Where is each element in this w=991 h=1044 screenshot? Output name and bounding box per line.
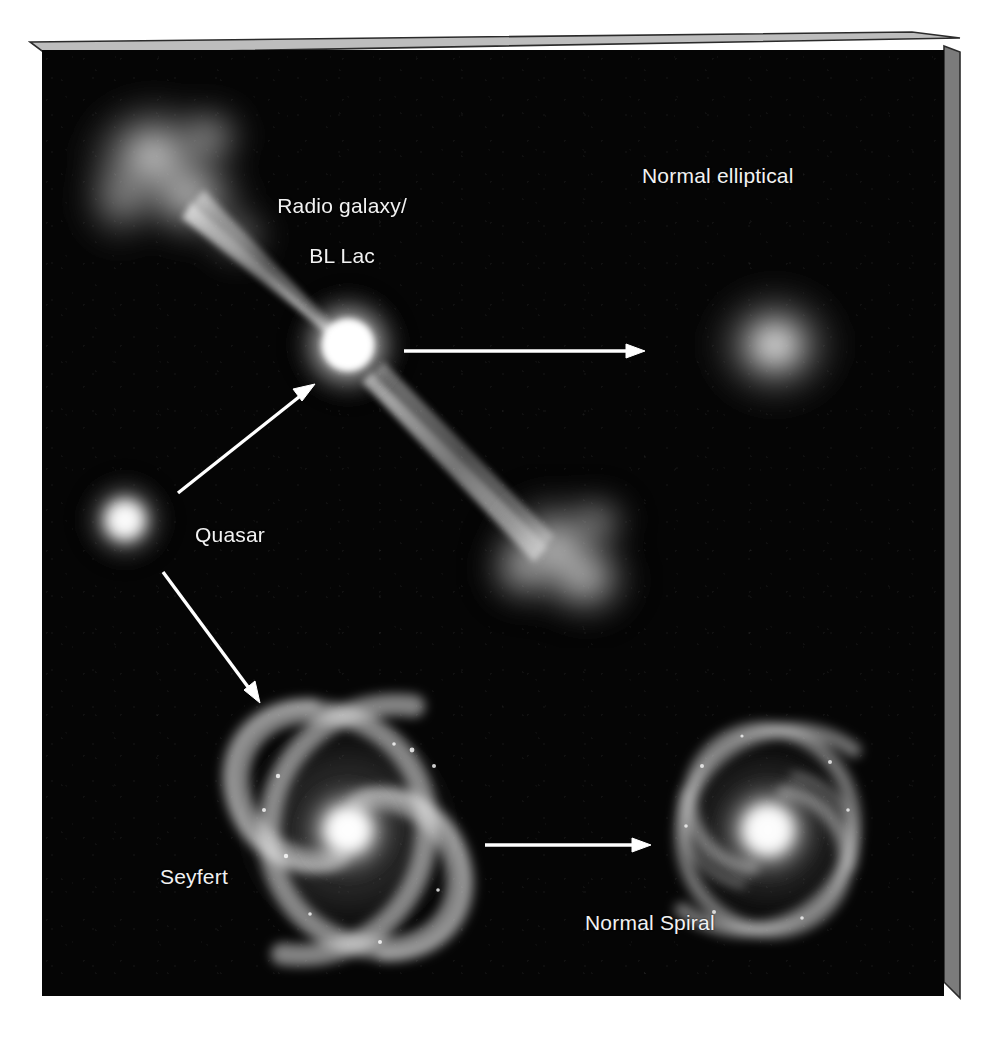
- normal-spiral-galaxy: [668, 729, 868, 931]
- arrow-seyfert-to-normal-spiral: [485, 838, 651, 852]
- normal-elliptical-galaxy: [695, 273, 855, 417]
- sky-panel: Radio galaxy/ BL Lac Normal elliptical Q…: [42, 50, 944, 996]
- label-normal-spiral: Normal Spiral: [585, 910, 715, 935]
- arrow-quasar-to-core: [178, 384, 315, 493]
- label-radio-galaxy-line2: BL Lac: [309, 244, 375, 267]
- label-quasar: Quasar: [195, 522, 265, 547]
- label-normal-elliptical: Normal elliptical: [642, 163, 794, 188]
- label-radio-galaxy-line1: Radio galaxy/: [277, 194, 407, 217]
- figure-stage: Radio galaxy/ BL Lac Normal elliptical Q…: [0, 0, 991, 1044]
- arrow-quasar-to-elliptical: [404, 344, 645, 358]
- label-seyfert: Seyfert: [160, 864, 228, 889]
- astronomy-scene: [42, 50, 944, 996]
- radio-lobe-lower-right: [474, 480, 645, 632]
- label-radio-galaxy: Radio galaxy/ BL Lac: [214, 168, 434, 293]
- quasar-point-source: [73, 468, 177, 572]
- seyfert-spiral-galaxy: [227, 704, 469, 957]
- arrow-quasar-to-seyfert: [163, 572, 260, 703]
